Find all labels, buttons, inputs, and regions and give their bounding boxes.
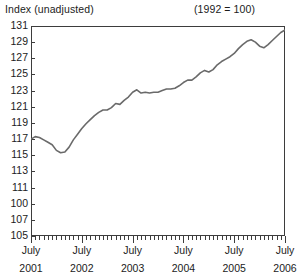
x-tick-minor — [86, 236, 87, 240]
x-tick-minor — [107, 236, 108, 240]
x-tick-label-month: July — [56, 244, 108, 256]
x-tick-minor — [141, 236, 142, 240]
x-tick-minor — [120, 236, 121, 240]
y-tick-label: 125 — [2, 67, 28, 79]
x-tick-label-month: July — [5, 244, 57, 256]
x-tick-label-year: 2006 — [259, 262, 303, 274]
x-tick-minor — [158, 236, 159, 240]
x-tick-minor — [217, 236, 218, 240]
x-tick-minor — [48, 236, 49, 240]
x-tick-minor — [65, 236, 66, 240]
x-tick-minor — [73, 236, 74, 240]
x-tick-minor — [175, 236, 176, 240]
x-tick-label-month: July — [107, 244, 159, 256]
x-tick-label: July2002 — [56, 244, 108, 274]
x-tick-minor — [281, 236, 282, 240]
x-tick-minor — [179, 236, 180, 240]
y-tick-label: 111 — [2, 181, 28, 193]
y-tick-label: 127 — [2, 51, 28, 63]
x-tick-minor — [260, 236, 261, 240]
x-tick-label-month: July — [157, 244, 209, 256]
y-tick-label: 121 — [2, 100, 28, 112]
x-tick-major — [183, 236, 184, 243]
x-tick-minor — [52, 236, 53, 240]
x-tick-minor — [69, 236, 70, 240]
x-tick-minor — [247, 236, 248, 240]
x-tick-label-year: 2005 — [208, 262, 260, 274]
x-tick-label-year: 2003 — [107, 262, 159, 274]
x-tick-minor — [95, 236, 96, 240]
x-tick-label-year: 2001 — [5, 262, 57, 274]
x-tick-minor — [150, 236, 151, 240]
x-tick-minor — [238, 236, 239, 240]
x-tick-major — [31, 236, 32, 243]
x-tick-minor — [213, 236, 214, 240]
x-tick-major — [133, 236, 134, 243]
x-tick-label: July2005 — [208, 244, 260, 274]
x-tick-minor — [255, 236, 256, 240]
x-tick-minor — [268, 236, 269, 240]
x-tick-major — [234, 236, 235, 243]
y-tick-label: 113 — [2, 164, 28, 176]
x-tick-label: July2001 — [5, 244, 57, 274]
y-tick-label: 105 — [2, 229, 28, 241]
x-tick-minor — [171, 236, 172, 240]
y-tick-label: 107 — [2, 213, 28, 225]
x-tick-minor — [209, 236, 210, 240]
x-tick-minor — [226, 236, 227, 240]
x-tick-minor — [192, 236, 193, 240]
x-tick-minor — [78, 236, 79, 240]
x-tick-label-month: July — [208, 244, 260, 256]
y-tick-label: 131 — [2, 19, 28, 31]
chart-title-left: Index (unadjusted) — [5, 3, 94, 15]
y-tick-label: 129 — [2, 35, 28, 47]
x-tick-minor — [272, 236, 273, 240]
x-tick-minor — [35, 236, 36, 240]
x-tick-minor — [243, 236, 244, 240]
chart-container: Index (unadjusted) (1992 = 100) 13112912… — [0, 0, 303, 276]
x-tick-label-month: July — [259, 244, 303, 256]
x-tick-minor — [166, 236, 167, 240]
x-tick-minor — [61, 236, 62, 240]
x-tick-minor — [111, 236, 112, 240]
x-tick-minor — [251, 236, 252, 240]
x-tick-minor — [205, 236, 206, 240]
x-tick-minor — [137, 236, 138, 240]
y-tick-label: 123 — [2, 84, 28, 96]
y-tick-label: 119 — [2, 116, 28, 128]
y-tick-label: 100 — [2, 197, 28, 209]
index-series-line — [31, 26, 285, 236]
y-tick-label: 115 — [2, 148, 28, 160]
x-tick-minor — [124, 236, 125, 240]
x-tick-minor — [277, 236, 278, 240]
x-tick-label: July2003 — [107, 244, 159, 274]
x-tick-minor — [145, 236, 146, 240]
x-tick-minor — [162, 236, 163, 240]
x-tick-minor — [200, 236, 201, 240]
x-tick-minor — [264, 236, 265, 240]
x-tick-minor — [116, 236, 117, 240]
x-tick-minor — [196, 236, 197, 240]
x-tick-label: July2004 — [157, 244, 209, 274]
x-tick-major — [285, 236, 286, 243]
x-tick-minor — [99, 236, 100, 240]
x-tick-minor — [44, 236, 45, 240]
x-tick-label-year: 2002 — [56, 262, 108, 274]
x-tick-label-year: 2004 — [157, 262, 209, 274]
x-tick-minor — [188, 236, 189, 240]
x-tick-minor — [103, 236, 104, 240]
x-tick-label: July2006 — [259, 244, 303, 274]
x-tick-minor — [90, 236, 91, 240]
x-tick-major — [82, 236, 83, 243]
x-tick-minor — [222, 236, 223, 240]
chart-base-note: (1992 = 100) — [194, 3, 255, 15]
x-tick-minor — [39, 236, 40, 240]
x-tick-minor — [128, 236, 129, 240]
x-tick-minor — [154, 236, 155, 240]
x-tick-minor — [230, 236, 231, 240]
y-tick-label: 117 — [2, 132, 28, 144]
x-tick-minor — [56, 236, 57, 240]
